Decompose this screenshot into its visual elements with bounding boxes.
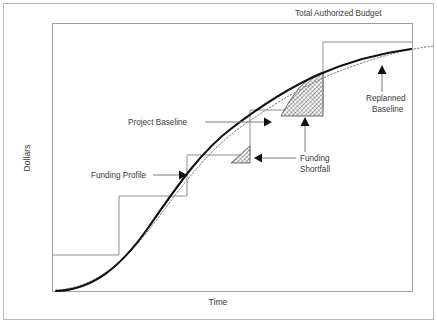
replanned-baseline-label-line1: Replanned (366, 94, 406, 103)
funding-shortfall-label-line1: Funding (300, 154, 330, 163)
replanned-baseline-arrow-icon (378, 65, 387, 74)
funding-profile-label: Funding Profile (91, 171, 147, 180)
funding-shortfall-region-late-overlay (281, 72, 323, 116)
funding-shortfall-arrow-late-icon (301, 117, 310, 126)
project-baseline-label: Project Baseline (128, 118, 188, 127)
funding-shortfall-arrow-early-icon (254, 154, 262, 163)
funding-shortfall-label-line2: Shortfall (300, 165, 330, 174)
project-baseline-arrow-icon (264, 118, 272, 127)
diagram-canvas: Total Authorized Budget Project Baseline… (0, 0, 437, 323)
x-axis-label: Time (209, 297, 228, 307)
y-axis-label: Dollars (22, 145, 32, 172)
total-authorized-budget-label: Total Authorized Budget (295, 9, 382, 18)
figure-outer-border (4, 4, 434, 320)
funding-profile-step-line (53, 42, 412, 255)
funding-profile-diagram: Total Authorized Budget Project Baseline… (0, 0, 437, 323)
replanned-baseline-label-line2: Baseline (372, 105, 404, 114)
replanned-baseline-curve (56, 46, 434, 290)
